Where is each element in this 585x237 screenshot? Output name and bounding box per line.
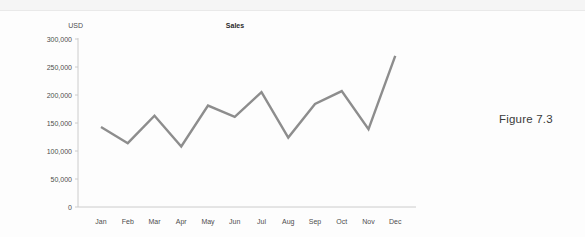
y-tick-label: 50,000: [51, 176, 73, 183]
x-tick-label: Dec: [389, 218, 402, 225]
x-tick-label: Jun: [229, 218, 240, 225]
figure-caption: Figure 7.3: [499, 113, 553, 125]
x-tick-label: Nov: [362, 218, 375, 225]
x-tick-label: May: [201, 218, 215, 226]
x-tick-label: Mar: [148, 218, 161, 225]
sales-series-line: [101, 56, 395, 147]
chart-title: Sales: [226, 22, 244, 29]
sales-line-chart: 050,000100,000150,000200,000250,000300,0…: [0, 0, 460, 237]
y-tick-label: 0: [68, 204, 72, 211]
y-tick-label: 200,000: [47, 92, 72, 99]
x-tick-label: Oct: [336, 218, 347, 225]
y-tick-label: 150,000: [47, 120, 72, 127]
x-tick-label: Feb: [122, 218, 134, 225]
x-tick-label: Aug: [282, 218, 295, 226]
y-tick-label: 100,000: [47, 148, 72, 155]
x-tick-label: Jan: [95, 218, 106, 225]
x-tick-label: Apr: [176, 218, 188, 226]
y-tick-label: 250,000: [47, 64, 72, 71]
y-tick-label: 300,000: [47, 36, 72, 43]
x-tick-label: Sep: [309, 218, 322, 226]
chart-canvas: 050,000100,000150,000200,000250,000300,0…: [0, 0, 460, 237]
x-tick-label: Jul: [257, 218, 266, 225]
document-page: 050,000100,000150,000200,000250,000300,0…: [0, 0, 585, 237]
y-axis-unit-label: USD: [68, 22, 83, 29]
